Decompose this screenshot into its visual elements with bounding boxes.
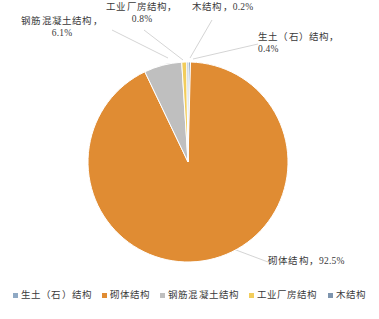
legend-item[interactable]: 砌体结构 <box>102 290 150 301</box>
pie-slices <box>88 62 288 262</box>
callout-wood-line1: 木结构，0.2% <box>192 2 296 14</box>
callout-label-soil: 生土（石）结构， 0.4% <box>258 32 376 55</box>
callout-rc-line2: 6.1% <box>8 28 116 40</box>
leader-line-wood <box>190 20 212 58</box>
legend-item-label: 钢筋混凝土结构 <box>168 290 239 301</box>
legend-swatch-icon <box>160 293 165 298</box>
plot-area: 钢筋混凝土结构， 6.1% 工业厂房结构， 0.8% 木结构，0.2% 生土（石… <box>0 0 379 283</box>
legend-item-label: 生土（石）结构 <box>21 290 92 301</box>
callout-label-wood: 木结构，0.2% <box>192 2 296 14</box>
callout-label-industrial: 工业厂房结构， 0.8% <box>98 2 186 25</box>
legend-swatch-icon <box>102 293 107 298</box>
callout-industrial-line1: 工业厂房结构， <box>98 2 186 14</box>
pie-chart: 钢筋混凝土结构， 6.1% 工业厂房结构， 0.8% 木结构，0.2% 生土（石… <box>0 0 379 319</box>
callout-soil-line1: 生土（石）结构， <box>258 32 376 44</box>
chart-legend: 生土（石）结构砌体结构钢筋混凝土结构工业厂房结构木结构 <box>0 285 379 319</box>
legend-swatch-icon <box>328 293 333 298</box>
legend-item-label: 工业厂房结构 <box>257 290 318 301</box>
leader-line-soil <box>193 44 258 59</box>
legend-item-label: 木结构 <box>336 290 366 301</box>
callout-label-masonry: 砌体结构，92.5% <box>268 256 378 268</box>
legend-item[interactable]: 木结构 <box>328 290 366 301</box>
legend-swatch-icon <box>249 293 254 298</box>
callout-soil-line2: 0.4% <box>258 44 376 56</box>
callout-masonry-line1: 砌体结构，92.5% <box>268 256 378 268</box>
legend-item[interactable]: 钢筋混凝土结构 <box>160 290 239 301</box>
legend-swatch-icon <box>13 293 18 298</box>
leader-line-rc <box>112 30 168 58</box>
legend-item[interactable]: 工业厂房结构 <box>249 290 318 301</box>
callout-industrial-line2: 0.8% <box>98 14 186 26</box>
legend-item-label: 砌体结构 <box>110 290 150 301</box>
legend-item[interactable]: 生土（石）结构 <box>13 290 92 301</box>
